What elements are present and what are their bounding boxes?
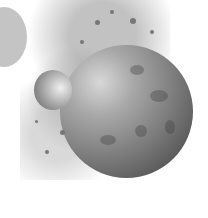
crater (135, 125, 147, 137)
debris (95, 20, 100, 25)
debris (80, 40, 84, 44)
large-planet (60, 45, 193, 178)
crater (165, 120, 175, 134)
crater (100, 135, 116, 145)
debris (60, 130, 65, 135)
crater (150, 90, 168, 102)
small-moon (34, 70, 72, 110)
debris (45, 150, 49, 154)
debris (150, 30, 154, 34)
illustration (0, 0, 208, 218)
debris (130, 18, 136, 24)
debris (110, 10, 114, 14)
debris (35, 120, 38, 123)
crater (130, 65, 144, 75)
